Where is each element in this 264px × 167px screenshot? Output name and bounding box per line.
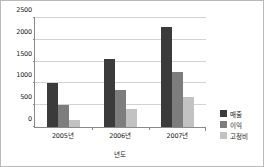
y-axis-tick-label: 1000 bbox=[16, 71, 32, 79]
bar-group bbox=[35, 18, 92, 127]
x-axis-tick-label: 2006년 bbox=[91, 130, 148, 140]
legend-item-label: 매출 bbox=[230, 109, 242, 119]
bar-group bbox=[149, 18, 206, 127]
legend-item[interactable]: 매출 bbox=[220, 108, 247, 119]
legend-swatch-icon bbox=[220, 132, 227, 139]
legend-item-label: 이익 bbox=[230, 120, 242, 130]
legend-swatch-icon bbox=[220, 110, 227, 117]
y-axis-tick-label: 500 bbox=[20, 93, 32, 101]
legend-swatch-icon bbox=[220, 121, 227, 128]
bar-group bbox=[92, 18, 149, 127]
bar bbox=[69, 120, 80, 127]
legend-item-label: 고정비 bbox=[230, 131, 247, 141]
x-axis-tick-labels: 2005년2006년2007년 bbox=[34, 130, 206, 140]
bar bbox=[183, 97, 194, 127]
y-axis-tick-label: 2000 bbox=[16, 28, 32, 36]
bar bbox=[161, 27, 172, 127]
bar bbox=[172, 72, 183, 127]
y-axis-tick-label: 2500 bbox=[16, 6, 32, 14]
y-axis-tick-label: 0 bbox=[28, 115, 32, 123]
y-axis-tick-label: 1500 bbox=[16, 50, 32, 58]
bar-chart-figure: 05001000150020002500 2005년2006년2007년 년도 … bbox=[0, 0, 264, 167]
bar-groups bbox=[35, 18, 206, 127]
bar bbox=[47, 83, 58, 127]
plot-area: 05001000150020002500 bbox=[34, 18, 206, 128]
bar bbox=[104, 59, 115, 127]
x-axis-tick-label: 2007년 bbox=[149, 130, 206, 140]
bar bbox=[115, 90, 126, 127]
bar bbox=[58, 105, 69, 127]
bar bbox=[126, 109, 137, 127]
x-axis-end-tick bbox=[205, 128, 206, 131]
legend-item[interactable]: 고정비 bbox=[220, 130, 247, 141]
chart-legend: 매출이익고정비 bbox=[220, 108, 247, 141]
x-axis-tick-label: 2005년 bbox=[34, 130, 91, 140]
x-axis-title: 년도 bbox=[34, 149, 206, 159]
legend-item[interactable]: 이익 bbox=[220, 119, 247, 130]
